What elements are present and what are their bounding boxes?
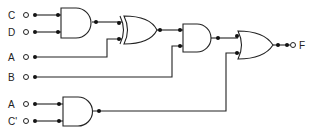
output-terminal [291,43,296,48]
and-gate-3 [63,97,93,126]
input-label-b: B [8,72,15,83]
logic-circuit-diagram: C D A B A C' [0,0,317,135]
xor-gate-1 [120,16,157,44]
or-gate-1 [238,31,273,59]
input-label-a: A [8,52,15,63]
input-label-c: C [8,10,15,21]
input-label-a2: A [8,99,15,110]
and-gate-2 [183,24,211,52]
input-label-d: D [8,27,15,38]
input-label-c-prime: C' [8,116,17,127]
output-label-f: F [299,40,305,51]
and-gate-1 [61,8,91,38]
input-terminals [24,13,38,124]
